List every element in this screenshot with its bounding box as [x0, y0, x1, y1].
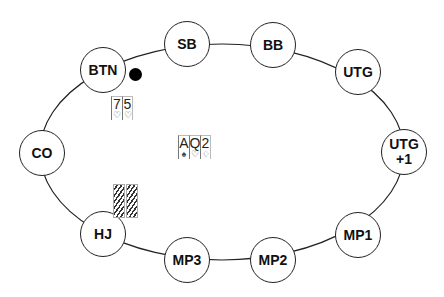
card: 2♢ — [200, 135, 211, 159]
seat-mp1[interactable]: MP1 — [335, 212, 381, 258]
seat-mp3[interactable]: MP3 — [164, 237, 210, 283]
seat-utg1[interactable]: UTG+1 — [381, 129, 427, 175]
board-cards: A♠ Q♡ 2♢ — [178, 135, 211, 159]
hj-face-down-cards — [113, 184, 139, 218]
seat-utg[interactable]: UTG — [335, 49, 381, 95]
card: 7♡ — [111, 96, 122, 120]
seat-bb[interactable]: BB — [250, 22, 296, 68]
card-back — [126, 184, 138, 218]
card: 5♡ — [122, 96, 133, 120]
seat-mp2[interactable]: MP2 — [250, 237, 296, 283]
seat-utg1-label: UTG+1 — [389, 137, 419, 167]
seat-sb[interactable]: SB — [164, 21, 210, 67]
seat-co[interactable]: CO — [19, 130, 65, 176]
card-back — [113, 184, 125, 218]
card: Q♡ — [189, 135, 200, 159]
table-outline — [0, 0, 444, 297]
seat-btn[interactable]: BTN — [80, 47, 126, 93]
dealer-button-icon — [129, 68, 142, 81]
card: A♠ — [178, 135, 189, 159]
btn-hole-cards: 7♡ 5♡ — [111, 96, 133, 120]
